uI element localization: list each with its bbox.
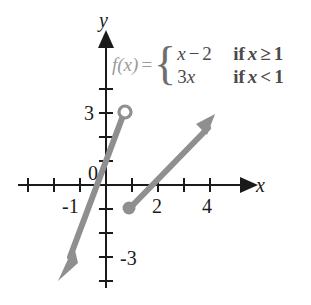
x-tick-label-4: 4 [202,195,212,217]
function-head: f(x) [112,54,138,76]
case-condition-if: if [233,43,245,64]
y-tick-label--3: -3 [120,247,137,269]
open-endpoint-dot [119,106,131,118]
x-tick-label--1: -1 [62,195,79,217]
case-condition-var: x [248,43,258,64]
case-condition-value: 1 [274,66,284,87]
case-expression-number: 2 [202,43,212,64]
case-condition-relation: ≥ [260,43,270,64]
case-condition-var: x [248,66,258,87]
case-condition: ifx<1 [233,65,286,88]
case-row: x−2 ifx≥1 [177,42,286,65]
cases-list: x−2 ifx≥1 3x ifx<1 [177,42,286,88]
y-tick-label-3: 3 [84,102,94,124]
case-row: 3x ifx<1 [177,65,286,88]
piecewise-function-figure: -1 2 4 3 -3 0 x y f(x) = { x−2 ifx≥1 3x … [0,0,311,305]
function-definition: f(x) = { x−2 ifx≥1 3x ifx<1 [112,42,287,88]
branch-3x-arrowhead [58,246,78,281]
case-expression-operator: − [189,43,200,64]
case-expression-number: 3 [177,66,187,87]
case-condition-if: if [233,66,245,87]
case-condition-relation: < [260,66,271,87]
case-condition-value: 1 [274,43,284,64]
branch-x-minus-2-arrowhead [196,114,215,135]
closed-endpoint-dot [123,202,136,215]
case-expression-var: x [187,66,195,87]
case-expression-var: x [177,43,185,64]
case-expression: x−2 [177,42,233,65]
branch-x-minus-2-line [130,128,208,208]
y-axis-label: y [97,9,108,32]
origin-label: 0 [88,162,98,184]
x-tick-label-2: 2 [152,195,162,217]
x-axis-label: x [255,174,265,196]
case-condition: ifx≥1 [233,42,286,65]
cases-brace: { [154,46,176,82]
case-expression: 3x [177,65,233,88]
equals-sign: = [141,54,152,76]
